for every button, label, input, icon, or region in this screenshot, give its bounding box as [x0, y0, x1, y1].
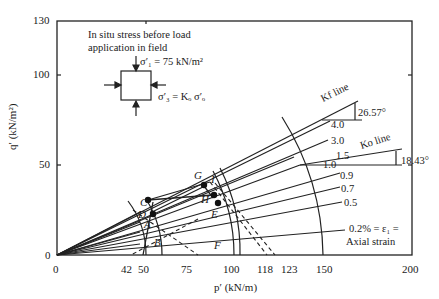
k-label-3-0: 3.0: [331, 135, 344, 146]
x-tick-label-123: 123: [281, 264, 298, 275]
point-label-f: F: [214, 240, 221, 251]
y-tick-label-0: 0: [45, 250, 51, 261]
k-label-1-0: 1.0: [323, 159, 336, 170]
k-lines: [57, 101, 358, 255]
k-label-0-7: 0.7: [341, 183, 354, 194]
strain-label-line2: Axial strain: [346, 236, 395, 247]
stress-path-chart: [0, 0, 439, 299]
point-h: [211, 192, 217, 198]
point-label-a: A: [144, 219, 151, 230]
x-tick-label-42: 42: [121, 264, 132, 275]
x-tick-label-118: 118: [257, 264, 273, 275]
point-label-e: E: [211, 209, 218, 220]
x-tick-label-200: 200: [402, 264, 419, 275]
point-label-c: C: [140, 197, 147, 208]
angle-18-43: 18.43°: [401, 155, 429, 166]
point-a: [150, 211, 156, 217]
k-label-1-5: 1.5: [336, 150, 349, 161]
k-label-0-9: 0.9: [340, 170, 353, 181]
x-tick-label-75: 75: [181, 264, 192, 275]
point-label-b: B: [154, 237, 161, 248]
ko-line: [300, 149, 402, 165]
x-tick-label-0: 0: [53, 264, 59, 275]
point-g: [201, 182, 207, 188]
inset-sigma3: σ′₃ = Kₒ σ′ₒ: [158, 91, 205, 102]
plot-frame: [57, 21, 412, 255]
y-tick-label-130: 130: [33, 15, 50, 26]
k-label-0-5: 0.5: [344, 197, 357, 208]
x-axis-title: p′ (kN/m): [214, 282, 257, 293]
inset-title-line2: application in field: [88, 42, 167, 53]
point-label-h: H: [201, 194, 209, 205]
x-tick-label-100: 100: [223, 264, 240, 275]
k-line-1-0: [57, 165, 300, 255]
x-tick-label-150: 150: [316, 264, 333, 275]
k-label-4-0: 4.0: [331, 119, 344, 130]
y-tick-label-100: 100: [33, 69, 50, 80]
y-tick-label-50: 50: [39, 159, 50, 170]
y-axis-title: q′ (kN/m²): [7, 104, 18, 150]
angle-26-57: 26.57°: [358, 107, 386, 118]
point-label-g: G: [194, 170, 202, 181]
x-tick-label-50: 50: [138, 264, 149, 275]
strain-label-line1: 0.2% = ε₁ =: [349, 223, 399, 234]
k-line-0-7: [57, 187, 340, 255]
point-label-i: I: [211, 174, 215, 185]
point-h2: [215, 200, 221, 206]
inset-sigma1: σ′₁ = 75 kN/m²: [140, 56, 203, 67]
k-line-0-5: [57, 202, 342, 255]
inset-title-line1: In situ stress before load: [88, 29, 191, 40]
